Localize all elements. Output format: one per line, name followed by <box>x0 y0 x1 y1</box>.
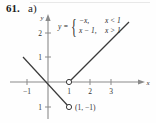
equation-case-1-condition: x < 1 <box>105 16 121 26</box>
x-ticklabel-neg1: −1 <box>23 87 31 96</box>
x-axis-arrowhead <box>138 79 145 84</box>
figure-container: 61. a) x y −1 1 2 3 2 1 1 <box>0 0 156 123</box>
piecewise-equation: y = { −x, x < 1 x − 1, x > 1 <box>58 16 121 36</box>
open-point-1-neg1 <box>66 104 71 109</box>
equation-case-2-condition: x > 1 <box>105 26 121 36</box>
x-ticklabel-3: 3 <box>109 87 113 96</box>
equation-brace: { <box>71 22 77 31</box>
equation-case-1-expression: −x, <box>79 16 105 26</box>
y-ticklabel-neg1: 1 <box>38 103 42 112</box>
x-axis-label: x <box>145 79 150 87</box>
equation-cases: −x, x < 1 x − 1, x > 1 <box>79 16 121 36</box>
x-ticklabel-2: 2 <box>88 87 92 96</box>
y-ticklabel-2: 2 <box>38 29 42 38</box>
y-axis-label: y <box>39 14 44 22</box>
equation-case-row-2: x − 1, x > 1 <box>79 26 121 36</box>
equation-case-2-expression: x − 1, <box>79 26 105 36</box>
equation-case-row-1: −x, x < 1 <box>79 16 121 26</box>
y-ticklabel-1: 1 <box>38 53 42 62</box>
point-annotation-label: (1, −1) <box>75 103 96 112</box>
open-point-1-0 <box>66 79 71 84</box>
y-axis-arrowhead <box>45 14 50 21</box>
x-ticklabel-1: 1 <box>67 87 71 96</box>
equation-lhs: y = <box>58 22 68 31</box>
